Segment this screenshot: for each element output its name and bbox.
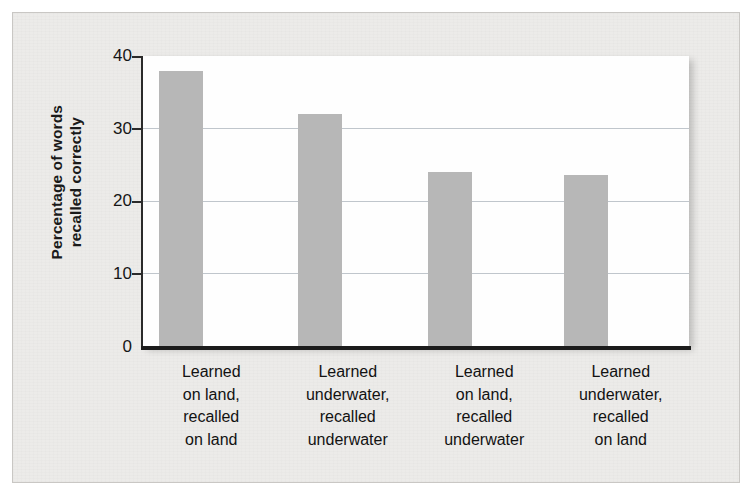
y-axis-title: Percentage of words recalled correctly — [47, 67, 85, 297]
category-label-1-line-3: recalled — [143, 406, 280, 429]
category-label-2-line-1: Learned — [280, 361, 417, 384]
plot-area — [143, 56, 689, 346]
y-axis-title-line-2: recalled correctly — [66, 67, 85, 297]
y-tick-label-0: 0 — [86, 338, 132, 355]
category-label-2-line-4: underwater — [280, 429, 417, 452]
category-label-3-line-4: underwater — [416, 429, 553, 452]
bar-learned-on-land-recalled-on-land — [159, 71, 203, 347]
category-label-2-line-3: recalled — [280, 406, 417, 429]
category-label-3: Learned on land, recalled underwater — [416, 361, 553, 452]
category-label-4-line-4: on land — [553, 429, 690, 452]
bar-learned-underwater-recalled-underwater — [298, 114, 342, 346]
category-label-1-line-1: Learned — [143, 361, 280, 384]
y-tick-label-20: 20 — [86, 192, 132, 209]
chart-figure: Percentage of words recalled correctly 4… — [12, 12, 740, 483]
bar-learned-on-land-recalled-underwater — [428, 172, 472, 346]
category-label-1: Learned on land, recalled on land — [143, 361, 280, 452]
y-tick-mark-20 — [132, 201, 143, 203]
category-label-1-line-4: on land — [143, 429, 280, 452]
y-tick-mark-30 — [132, 128, 143, 130]
category-label-4-line-2: underwater, — [553, 384, 690, 407]
y-axis-tick-labels: 40 30 20 10 0 — [86, 56, 132, 346]
y-tick-mark-40 — [132, 56, 143, 58]
category-label-3-line-1: Learned — [416, 361, 553, 384]
category-label-2-line-2: underwater, — [280, 384, 417, 407]
category-label-4-line-1: Learned — [553, 361, 690, 384]
y-tick-label-10: 10 — [86, 265, 132, 282]
category-label-2: Learned underwater, recalled underwater — [280, 361, 417, 452]
category-label-4-line-3: recalled — [553, 406, 690, 429]
x-axis-baseline — [141, 346, 691, 350]
category-label-3-line-2: on land, — [416, 384, 553, 407]
category-label-1-line-2: on land, — [143, 384, 280, 407]
x-axis-category-labels: Learned on land, recalled on land Learne… — [143, 361, 689, 452]
y-tick-label-40: 40 — [86, 47, 132, 64]
category-label-4: Learned underwater, recalled on land — [553, 361, 690, 452]
gridline-30 — [143, 128, 689, 129]
y-axis-title-line-1: Percentage of words — [47, 67, 66, 297]
y-tick-mark-10 — [132, 273, 143, 275]
bar-learned-underwater-recalled-on-land — [564, 175, 608, 346]
y-tick-label-30: 30 — [86, 120, 132, 137]
category-label-3-line-3: recalled — [416, 406, 553, 429]
